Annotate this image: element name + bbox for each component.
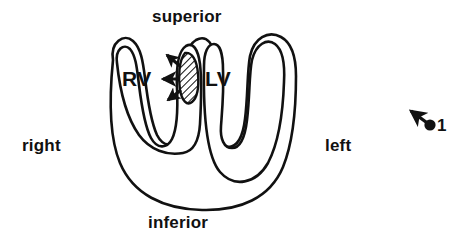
orientation-marker-label: 1 xyxy=(437,117,447,134)
label-left: left xyxy=(325,137,351,154)
interventricular-septum-hatched xyxy=(179,53,198,103)
cardiac-diagram-canvas xyxy=(0,0,470,245)
cardiac-diagram-figure: superior inferior right left RV LV 1 xyxy=(0,0,470,245)
label-right: right xyxy=(22,137,61,154)
label-right-ventricle: RV xyxy=(122,68,152,89)
label-left-ventricle: LV xyxy=(205,68,231,89)
label-inferior: inferior xyxy=(148,214,208,231)
orientation-marker-dot xyxy=(424,119,435,130)
orientation-marker xyxy=(411,111,436,131)
label-superior: superior xyxy=(152,8,222,25)
